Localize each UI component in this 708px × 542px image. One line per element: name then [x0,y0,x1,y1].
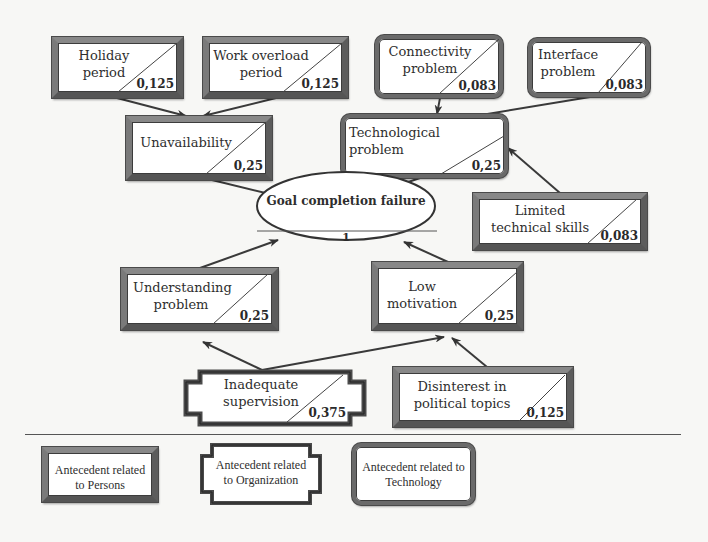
node-value: 0,25 [485,309,514,323]
node-value: 0,125 [526,406,564,420]
legend-persons-label: Antecedent related to Persons [52,463,148,493]
edge-skills-technological [508,148,560,193]
node-interface-problem[interactable]: Interface problem 0,083 [528,38,650,97]
node-value: 0,375 [308,406,346,420]
edge-understanding-goal [200,240,278,268]
node-label: Unavailability [138,134,234,151]
node-label: Connectivity problem [387,43,473,77]
edge-workoverload-unavailability [203,98,276,116]
legend-technology: Antecedent related to Technology [352,443,475,505]
legend-divider [25,434,681,435]
legend-organization-label: Antecedent related to Organization [212,458,310,488]
node-value: 0,125 [136,77,174,91]
legend-organization: Antecedent related to Organization [200,443,322,505]
node-value: 0,25 [472,159,501,173]
legend-technology-label: Antecedent related to Technology [360,460,467,490]
node-connectivity-problem[interactable]: Connectivity problem 0,083 [375,35,503,98]
node-work-overload-period[interactable]: Work overload period 0,125 [203,37,348,98]
node-label: Low motivation [382,278,462,312]
node-label: Understanding problem [133,279,229,313]
node-label: Work overload period [211,47,311,81]
node-label: Disinterest in political topics [403,378,521,412]
goal-completion-failure[interactable]: Goal completion failure 1 [255,170,437,242]
legend-persons: Antecedent related to Persons [42,447,158,502]
node-inadequate-supervision[interactable]: Inadequate supervision 0,375 [183,370,367,426]
node-value: 0,083 [458,79,496,93]
node-holiday-period[interactable]: Holiday period 0,125 [52,37,183,98]
edge-motivation-goal [404,242,448,262]
node-label: Limited technical skills [485,202,595,236]
node-limited-technical-skills[interactable]: Limited technical skills 0,083 [473,193,647,250]
goal-label: Goal completion failure [255,194,437,209]
goal-value: 1 [255,231,437,244]
node-technological-problem[interactable]: Technological problem 0,25 [341,114,508,178]
node-low-motivation[interactable]: Low motivation 0,25 [372,262,523,330]
node-label: Holiday period [74,47,134,81]
node-understanding-problem[interactable]: Understanding problem 0,25 [121,268,278,330]
node-unavailability[interactable]: Unavailability 0,25 [126,116,272,180]
node-value: 0,083 [600,229,638,243]
node-value: 0,083 [605,78,643,92]
node-value: 0,125 [301,77,339,91]
node-value: 0,25 [240,309,269,323]
node-disinterest-political-topics[interactable]: Disinterest in political topics 0,125 [393,367,573,427]
edge-connectivity-technological [437,98,440,114]
edge-holiday-unavailability [117,98,186,116]
edge-disinterest-motivation [452,338,487,367]
node-label: Technological problem [349,124,439,158]
node-label: Interface problem [538,46,598,80]
node-label: Inadequate supervision [211,376,311,410]
edge-supervision-motivation [262,337,444,370]
edge-supervision-understanding [203,342,262,370]
